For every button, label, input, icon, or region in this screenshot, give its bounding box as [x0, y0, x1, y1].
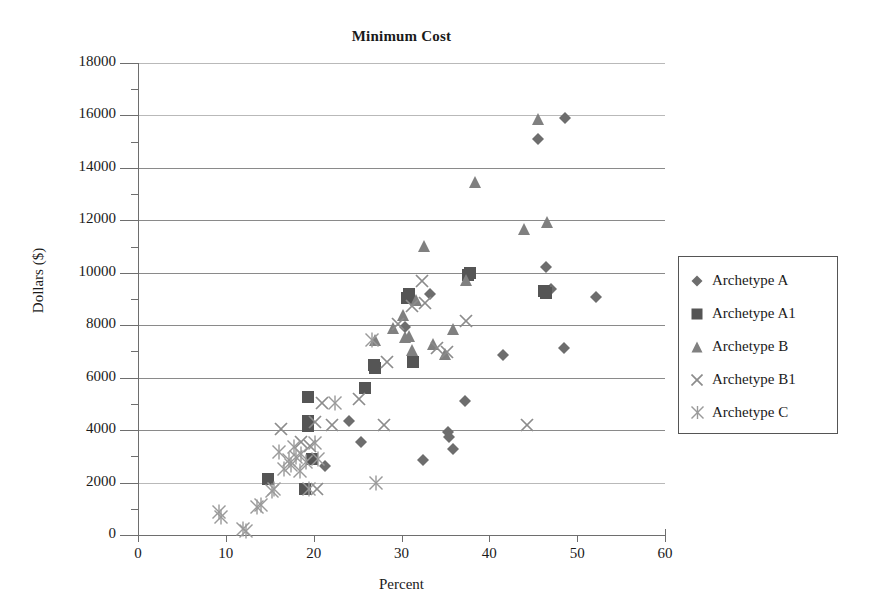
y-axis-tick: [120, 115, 138, 116]
data-point: [353, 392, 366, 405]
x-axis-tick: [489, 535, 490, 542]
data-point: [541, 215, 554, 228]
data-point: [540, 261, 553, 274]
chart-figure: Minimum Cost Dollars ($) Percent Archety…: [0, 0, 885, 616]
x-axis-title: Percent: [138, 576, 665, 593]
y-axis-tick: [120, 168, 138, 169]
y-axis-minor-tick: [131, 247, 138, 248]
y-axis-minor-tick: [131, 404, 138, 405]
data-point: [558, 112, 571, 125]
chart-title: Minimum Cost: [138, 28, 665, 45]
data-point: [406, 299, 419, 312]
y-axis-tick: [120, 325, 138, 326]
data-point: [531, 113, 544, 126]
legend-item-label: Archetype A: [712, 272, 788, 289]
data-point: [419, 297, 432, 310]
data-point: [267, 482, 281, 496]
data-point: [214, 510, 228, 524]
gridline: [138, 378, 665, 379]
data-point: [517, 222, 530, 235]
y-axis-tick: [120, 273, 138, 274]
y-axis-minor-tick: [131, 509, 138, 510]
y-axis-label: 4000: [40, 420, 116, 437]
data-point: [355, 436, 368, 449]
data-point: [521, 419, 534, 432]
y-axis-minor-tick: [131, 456, 138, 457]
y-axis-minor-tick: [131, 89, 138, 90]
y-axis-line: [138, 63, 139, 536]
y-axis-label: 10000: [40, 263, 116, 280]
y-axis-tick: [120, 430, 138, 431]
x-axis-tick: [314, 535, 315, 542]
data-point: [365, 333, 379, 347]
y-axis-label: 12000: [40, 210, 116, 227]
legend-item-label: Archetype B1: [712, 371, 796, 388]
gridline: [138, 483, 665, 484]
data-point: [469, 175, 482, 188]
y-axis-minor-tick: [131, 299, 138, 300]
data-point: [369, 362, 382, 375]
x-axis-tick: [577, 535, 578, 542]
data-point: [342, 414, 355, 427]
legend-item-label: Archetype C: [712, 404, 788, 421]
y-axis-label: 18000: [40, 53, 116, 70]
data-point: [531, 132, 544, 145]
data-point: [458, 394, 471, 407]
legend-item-archetype-a[interactable]: Archetype A: [687, 264, 837, 297]
y-axis-tick: [120, 535, 138, 536]
diamond-marker-icon: [687, 271, 707, 291]
data-point: [416, 454, 429, 467]
data-point: [391, 318, 404, 331]
legend-item-archetype-c[interactable]: Archetype C: [687, 396, 837, 429]
data-point: [406, 343, 419, 356]
triangle-marker-icon: [687, 337, 707, 357]
y-axis-label: 8000: [40, 315, 116, 332]
data-point: [328, 396, 342, 410]
chart-legend: Archetype AArchetype A1Archetype BArchet…: [678, 256, 838, 434]
data-point: [311, 452, 325, 466]
data-point: [239, 524, 253, 538]
legend-item-archetype-a1[interactable]: Archetype A1: [687, 297, 837, 330]
x-axis-tick: [226, 535, 227, 542]
data-point: [308, 436, 322, 450]
data-point: [447, 322, 460, 335]
gridline: [138, 273, 665, 274]
legend-item-archetype-b1[interactable]: Archetype B1: [687, 363, 837, 396]
x-axis-label: 10: [206, 545, 246, 562]
gridline: [138, 63, 665, 64]
gridline: [138, 220, 665, 221]
y-axis-tick: [120, 63, 138, 64]
legend-item-label: Archetype B: [712, 338, 788, 355]
data-point: [326, 418, 339, 431]
gridline: [138, 115, 665, 116]
y-axis-minor-tick: [131, 142, 138, 143]
data-point: [415, 275, 428, 288]
x-axis-tick: [665, 535, 666, 542]
y-axis-label: 6000: [40, 368, 116, 385]
y-axis-label: 0: [40, 525, 116, 542]
x-axis-label: 60: [645, 545, 685, 562]
square-marker-icon: [687, 304, 707, 324]
data-point: [441, 345, 454, 358]
x-axis-label: 40: [469, 545, 509, 562]
y-axis-minor-tick: [131, 194, 138, 195]
gridline: [138, 430, 665, 431]
y-axis-minor-tick: [131, 351, 138, 352]
data-point: [447, 443, 460, 456]
data-point: [369, 476, 383, 490]
y-axis-tick: [120, 483, 138, 484]
x-axis-label: 50: [557, 545, 597, 562]
x-axis-tick: [138, 535, 139, 542]
y-axis-label: 14000: [40, 158, 116, 175]
data-point: [406, 355, 419, 368]
data-point: [590, 291, 603, 304]
data-point: [377, 418, 390, 431]
gridline: [138, 168, 665, 169]
data-point: [254, 498, 268, 512]
data-point: [309, 416, 322, 429]
legend-item-archetype-b[interactable]: Archetype B: [687, 330, 837, 363]
data-point: [418, 240, 431, 253]
x-marker-icon: [687, 370, 707, 390]
asterisk-marker-icon: [687, 403, 707, 423]
data-point: [381, 355, 394, 368]
